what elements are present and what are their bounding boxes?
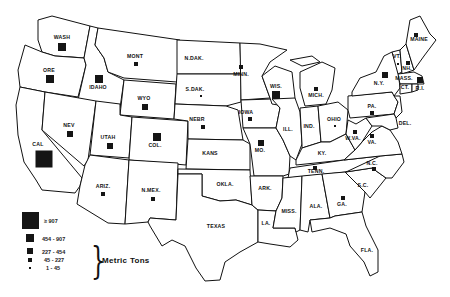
quantity-square-icon-iowa xyxy=(248,117,252,121)
quantity-square-icon-maine xyxy=(414,33,418,37)
legend-label: 227 - 454 xyxy=(42,249,65,255)
quantity-square-icon-nh xyxy=(406,61,410,65)
quantity-square-icon-sdak xyxy=(200,95,202,97)
state-label-ind: IND. xyxy=(303,124,314,129)
state-label-vt: VT. xyxy=(393,54,401,59)
legend-label: ≥ 907 xyxy=(44,218,58,224)
state-label-col: COL. xyxy=(148,143,161,148)
state-label-ark: ARK. xyxy=(258,186,271,191)
quantity-square-icon-wis xyxy=(272,91,280,99)
legend-row-45-227 xyxy=(28,258,32,262)
state-label-ga: GA. xyxy=(337,202,347,207)
state-label-texas: TEXAS xyxy=(207,224,225,229)
quantity-square-icon-ohio xyxy=(334,125,336,127)
state-label-sc: S.C. xyxy=(358,183,369,188)
quantity-square-icon-ariz xyxy=(101,192,105,196)
state-label-nc: N.C. xyxy=(366,161,377,166)
state-label-mont: MONT xyxy=(127,54,143,59)
state-label-ky: KY. xyxy=(318,151,327,156)
quantity-square-icon-ore xyxy=(46,75,54,83)
quantity-square-icon-wva xyxy=(353,130,357,134)
quantity-square-icon-wash xyxy=(58,43,66,51)
quantity-square-icon-utah xyxy=(107,143,113,149)
quantity-square-icon-mont xyxy=(134,62,138,66)
state-label-idaho: IDAHO xyxy=(89,85,107,90)
legend-row-454-907 xyxy=(26,234,34,242)
quantity-square-icon-va xyxy=(370,134,374,138)
state-label-wis: WIS. xyxy=(270,84,282,89)
quantity-square-icon-idaho xyxy=(95,75,103,83)
state-label-ndak: N.DAK. xyxy=(184,56,203,61)
state-label-mass: MASS. xyxy=(395,76,412,81)
state-label-la: LA. xyxy=(262,221,271,226)
quantity-square-icon-nev xyxy=(67,131,73,137)
legend-row-227-454 xyxy=(27,248,33,254)
state-label-nebr: NEBR xyxy=(189,117,205,122)
legend-square-icon xyxy=(26,234,34,242)
state-label-okla: OKLA. xyxy=(216,182,233,187)
state-label-va: VA. xyxy=(368,140,377,145)
quantity-square-icon-minn xyxy=(239,65,243,69)
state-label-ohio: OHIO xyxy=(327,117,341,122)
state-label-ct: CT. xyxy=(401,85,409,90)
state-label-nh: NH. xyxy=(402,66,412,71)
state-label-minn: MINN. xyxy=(233,72,249,77)
state-label-ala: ALA. xyxy=(310,204,323,209)
state-label-ariz: ARIZ. xyxy=(96,184,111,189)
legend-label: 45 - 227 xyxy=(44,257,64,263)
state-label-ore: ORE xyxy=(43,68,55,73)
quantity-square-icon-cal xyxy=(36,151,53,168)
quantity-square-icon-ny xyxy=(382,72,388,78)
legend-square-icon xyxy=(27,248,33,254)
state-label-iowa: IOWA xyxy=(239,110,254,115)
quantity-square-icon-nc xyxy=(372,167,376,171)
quantity-square-icon-vt xyxy=(397,63,399,65)
legend-row-ge907 xyxy=(22,212,39,229)
state-col xyxy=(129,117,188,165)
state-label-pa: PA. xyxy=(368,104,377,109)
quantity-square-icon-tenn xyxy=(313,166,317,170)
quantity-square-icon-nmex xyxy=(151,197,155,201)
state-label-nmex: N.MEX. xyxy=(141,188,160,193)
state-label-wyo: WYO xyxy=(138,96,151,101)
state-label-utah: UTAH xyxy=(101,135,116,140)
state-label-kans: KANS xyxy=(202,151,218,156)
legend: ≥ 907 454 - 907 227 - 454 45 - 227 1 - 4… xyxy=(18,212,158,282)
state-label-sdak: S.DAK. xyxy=(186,87,205,92)
units-label: Metric Tons xyxy=(102,256,150,265)
state-label-cal: CAL xyxy=(32,142,43,147)
state-label-ill: ILL. xyxy=(283,127,293,132)
state-label-ri: R.I. xyxy=(416,86,425,91)
state-label-del: DEL. xyxy=(399,121,412,126)
quantity-square-icon-mass xyxy=(417,77,423,83)
quantity-square-icon-mo xyxy=(258,140,264,146)
state-label-wash: WASH xyxy=(54,35,70,40)
legend-square-icon xyxy=(22,212,39,229)
state-label-mich: MICH. xyxy=(308,93,324,98)
quantity-square-icon-col xyxy=(153,133,161,141)
state-label-fla: FLA. xyxy=(361,248,373,253)
state-label-ny: N.Y. xyxy=(374,81,384,86)
legend-row-1-45 xyxy=(29,267,31,269)
legend-label: 454 - 907 xyxy=(42,236,65,242)
legend-label: 1 - 45 xyxy=(46,265,60,271)
legend-square-icon xyxy=(28,258,32,262)
state-label-maine: MAINE xyxy=(410,37,428,42)
state-label-tenn: TENN. xyxy=(308,169,325,174)
quantity-square-icon-pa xyxy=(370,111,374,115)
state-fla xyxy=(310,212,378,276)
state-label-wva: W.VA. xyxy=(345,136,360,141)
state-label-mo: MO. xyxy=(255,148,265,153)
quantity-square-icon-wyo xyxy=(142,104,148,110)
legend-square-icon xyxy=(29,267,31,269)
quantity-square-icon-mich xyxy=(314,87,318,91)
state-label-nev: NEV xyxy=(63,123,74,128)
quantity-square-icon-nebr xyxy=(201,125,205,129)
state-label-miss: MISS. xyxy=(281,209,296,214)
quantity-square-icon-ga xyxy=(341,196,345,200)
